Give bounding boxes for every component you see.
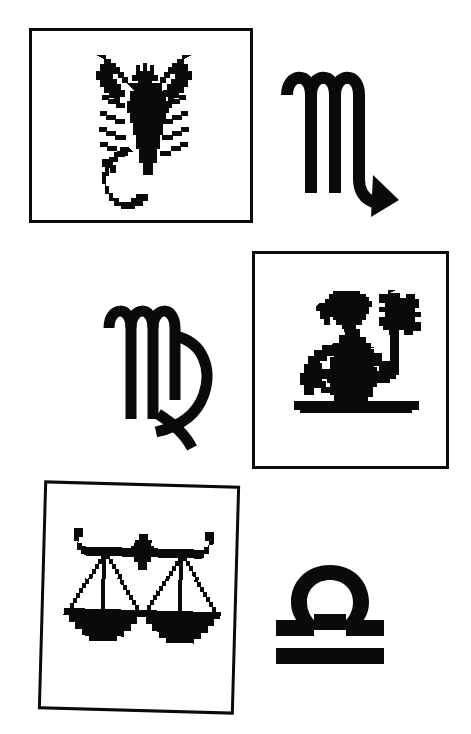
scorpio-glyph-icon [277,57,403,232]
worksheet-page [0,0,471,734]
virgo-glyph-icon [100,292,222,452]
libra-glyph-icon [272,562,388,665]
scorpion-frame-inner [32,31,250,220]
balance-scales-icon [59,524,225,651]
scales-frame-inner [41,483,237,711]
scorpion-icon [84,47,204,209]
scales-picture-frame[interactable] [38,480,240,714]
maiden-frame-inner [255,254,446,466]
maiden-with-flower-icon [286,285,427,422]
scorpion-picture-frame[interactable] [29,28,253,223]
maiden-picture-frame[interactable] [252,251,449,469]
